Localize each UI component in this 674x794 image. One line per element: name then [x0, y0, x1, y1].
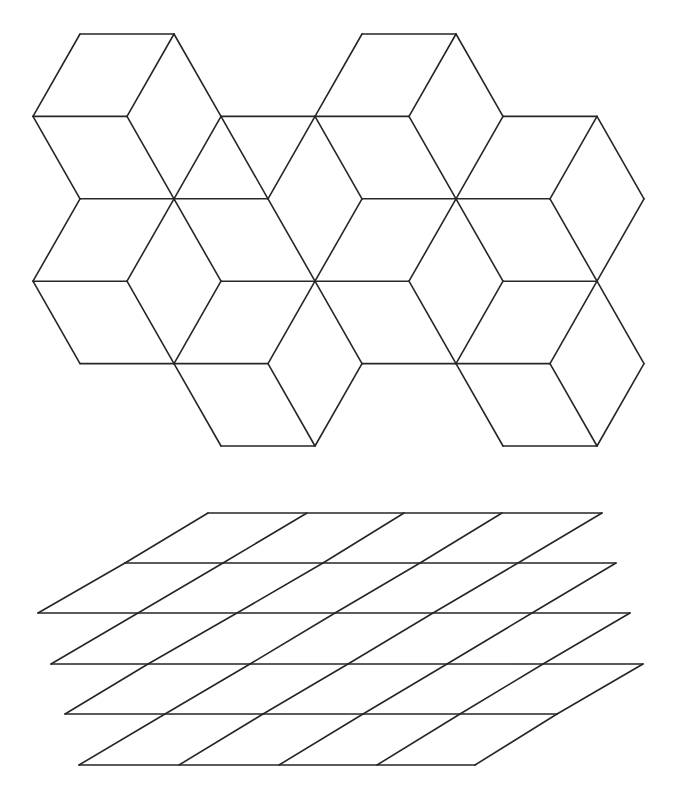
- cube-edge: [33, 281, 80, 363]
- figure-canvas: [0, 0, 674, 794]
- cube-edge: [550, 364, 597, 446]
- cube-edge: [268, 116, 315, 198]
- grid-slanted-line: [518, 513, 602, 563]
- cube-edge: [456, 199, 503, 281]
- grid-slanted-line: [51, 613, 138, 664]
- grid-slanted-line: [250, 613, 335, 664]
- cube-edge: [409, 199, 456, 281]
- grid-slanted-line: [65, 664, 148, 714]
- grid-slanted-line: [79, 714, 165, 765]
- cube-edge: [268, 199, 315, 281]
- grid-slanted-line: [279, 714, 363, 765]
- grid-slanted-line: [348, 613, 433, 664]
- grid-slanted-line: [237, 563, 323, 613]
- cube-edge: [127, 34, 174, 116]
- grid-slanted-line: [557, 664, 643, 714]
- cube-edge: [597, 199, 644, 281]
- cube-edge: [174, 199, 221, 281]
- grid-slanted-line: [377, 714, 460, 765]
- isometric-cube-tiling: [33, 34, 644, 446]
- cube-edge: [409, 281, 456, 363]
- cube-edge: [456, 116, 503, 198]
- cube-edge: [315, 281, 362, 363]
- grid-slanted-line: [138, 563, 223, 613]
- cube-edge: [597, 116, 644, 198]
- grid-slanted-line: [148, 613, 237, 664]
- cube-edge: [221, 116, 268, 198]
- grid-slanted-line: [420, 513, 502, 563]
- grid-slanted-line: [363, 664, 447, 714]
- grid-slanted-line: [38, 563, 125, 613]
- grid-slanted-line: [125, 513, 208, 563]
- cube-edge: [315, 364, 362, 446]
- grid-slanted-line: [335, 563, 420, 613]
- cube-edge: [456, 34, 503, 116]
- cube-edge: [315, 199, 362, 281]
- cube-edge: [315, 116, 362, 198]
- grid-slanted-line: [543, 613, 630, 664]
- cube-edge: [33, 116, 80, 198]
- cube-edge: [268, 364, 315, 446]
- cube-edge: [127, 116, 174, 198]
- grid-slanted-line: [447, 613, 532, 664]
- cube-edge: [409, 34, 456, 116]
- cube-edge: [127, 281, 174, 363]
- cube-edge: [127, 199, 174, 281]
- cube-edge: [174, 116, 221, 198]
- cube-edge: [550, 281, 597, 363]
- cube-edge: [550, 199, 597, 281]
- grid-slanted-line: [323, 513, 404, 563]
- cube-edge: [174, 34, 221, 116]
- grid-slanted-line: [165, 664, 250, 714]
- cube-edge: [550, 116, 597, 198]
- cube-edge: [174, 281, 221, 363]
- cube-edge: [315, 34, 362, 116]
- cube-edge: [456, 281, 503, 363]
- stacked-parallelogram-grid: [38, 513, 643, 765]
- cube-edge: [456, 364, 503, 446]
- cube-edge: [409, 116, 456, 198]
- grid-slanted-line: [223, 513, 307, 563]
- grid-slanted-line: [532, 563, 616, 613]
- cube-edge: [597, 281, 644, 363]
- grid-slanted-line: [179, 714, 263, 765]
- cube-edge: [174, 364, 221, 446]
- grid-slanted-line: [460, 664, 543, 714]
- grid-slanted-line: [433, 563, 518, 613]
- cube-edge: [33, 199, 80, 281]
- cube-edge: [597, 364, 644, 446]
- grid-slanted-line: [475, 714, 557, 765]
- cube-edge: [268, 281, 315, 363]
- cube-edge: [33, 34, 80, 116]
- grid-slanted-line: [263, 664, 348, 714]
